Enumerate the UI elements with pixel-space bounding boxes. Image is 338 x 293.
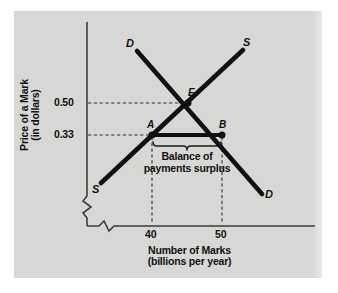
point-e-label: E xyxy=(188,88,195,99)
point-e-dot xyxy=(185,100,192,107)
demand-label-bottom: D xyxy=(265,189,273,201)
surplus-annotation-line2: payments surplus xyxy=(123,163,251,175)
y-axis xyxy=(83,22,91,226)
supply-label-top: S xyxy=(243,37,250,49)
y-tick-050: 0.50 xyxy=(54,97,74,108)
y-axis-title-line2: (in dollars) xyxy=(30,72,41,158)
x-tick-50: 50 xyxy=(215,229,226,240)
point-b-dot xyxy=(219,132,226,139)
y-axis-title: Price of a Mark (in dollars) xyxy=(19,72,41,158)
point-a-dot xyxy=(149,132,156,139)
y-tick-033: 0.33 xyxy=(54,129,74,140)
surplus-annotation: Balance of payments surplus xyxy=(123,151,251,175)
point-a-label: A xyxy=(147,120,154,131)
x-tick-40: 40 xyxy=(145,229,156,240)
x-axis-title: Number of Marks (billions per year) xyxy=(117,245,262,267)
x-axis xyxy=(87,221,315,231)
surplus-brace xyxy=(153,142,221,150)
surplus-annotation-line1: Balance of xyxy=(123,151,251,163)
demand-label-top: D xyxy=(126,38,134,50)
point-b-label: B xyxy=(219,120,226,131)
supply-label-bottom: S xyxy=(92,184,99,196)
figure-container: Price of a Mark (in dollars) 0.50 0.33 4… xyxy=(0,0,338,293)
x-axis-title-line2: (billions per year) xyxy=(117,256,262,267)
